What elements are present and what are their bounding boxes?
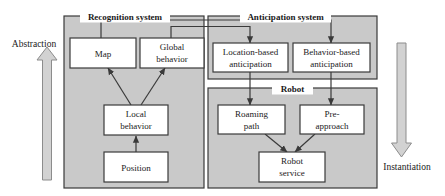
box-location-based-label-line1: Location-based xyxy=(223,47,279,57)
abstraction-arrow-icon xyxy=(37,47,57,180)
instantiation-arrow-icon xyxy=(392,43,412,157)
box-roaming-path-label-line2: path xyxy=(244,121,260,131)
box-roaming-path-label-line1: Roaming xyxy=(235,109,268,119)
box-robot-service-label-line2: service xyxy=(279,168,304,178)
box-location-based-label-line2: anticipation xyxy=(229,59,272,69)
box-global-behavior-label-line1: Global xyxy=(160,42,185,52)
panel-recognition-title: Recognition system xyxy=(88,12,163,22)
box-behavior-based-label-line2: anticipation xyxy=(310,59,353,69)
box-map-label: Map xyxy=(95,49,112,59)
abstraction-label: Abstraction xyxy=(12,39,57,49)
panel-anticipation-title: Anticipation system xyxy=(247,12,324,22)
box-behavior-based-label-line1: Behavior-based xyxy=(303,47,360,57)
box-local-behavior-label-line2: behavior xyxy=(120,121,152,131)
box-pre-approach-label-line2: approach xyxy=(316,121,349,131)
architecture-diagram: Map Global behavior Local behavior Posit… xyxy=(0,0,445,196)
diagram-root: Map Global behavior Local behavior Posit… xyxy=(0,0,445,196)
box-global-behavior-label-line2: behavior xyxy=(156,54,188,64)
instantiation-label: Instantiation xyxy=(383,162,431,172)
box-position-label: Position xyxy=(121,163,151,173)
box-pre-approach-label-line1: Pre- xyxy=(325,109,340,119)
box-local-behavior-label-line1: Local xyxy=(126,109,147,119)
box-robot-service-label-line1: Robot xyxy=(281,156,304,166)
panel-robot-title: Robot xyxy=(281,84,305,94)
